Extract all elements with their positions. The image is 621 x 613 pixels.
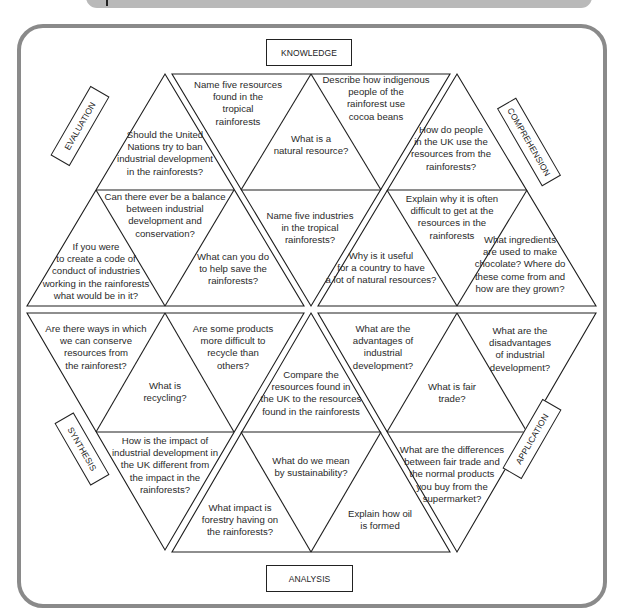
- question-application-2: What is fair trade?: [428, 381, 476, 405]
- question-analysis-4: Explain how oil is formed: [348, 508, 412, 532]
- question-knowledge-4: Name five industries in the tropical rai…: [267, 210, 354, 247]
- question-comprehension-1: How do people in the UK use the resource…: [411, 124, 491, 173]
- question-synthesis-4: How is the impact of industrial developm…: [112, 435, 218, 496]
- question-application-1: What are the advantages of industrial de…: [353, 323, 413, 372]
- question-evaluation-3: If you were to create a code of conduct …: [43, 241, 150, 302]
- label-knowledge: KNOWLEDGE: [266, 39, 352, 66]
- question-knowledge-1: Name five resources found in the tropica…: [194, 79, 282, 128]
- question-comprehension-4: What ingredients are used to make chocol…: [475, 234, 566, 295]
- question-analysis-1: Compare the resources found in the UK to…: [261, 369, 362, 418]
- question-knowledge-3: Describe how indigenous people of the ra…: [322, 74, 429, 123]
- question-comprehension-3: Why is it useful for a country to have a…: [326, 250, 437, 287]
- question-evaluation-4: What can you do to help save the rainfor…: [197, 251, 269, 288]
- question-synthesis-2: What is recycling?: [143, 380, 186, 404]
- question-evaluation-2: Can there ever be a balance between indu…: [104, 191, 225, 240]
- question-application-3: What are the disadvantages of industrial…: [489, 325, 551, 374]
- question-analysis-2: What do we mean by sustainability?: [272, 455, 349, 479]
- question-synthesis-3: Are some products more difficult to recy…: [193, 323, 274, 372]
- question-application-4: What are the differences between fair tr…: [400, 444, 504, 505]
- label-analysis: ANALYSIS: [266, 565, 353, 592]
- question-knowledge-2: What is a natural resource?: [274, 133, 349, 157]
- question-analysis-3: What impact is forestry having on the ra…: [202, 502, 278, 539]
- question-evaluation-1: Should the United Nations try to ban ind…: [117, 129, 213, 178]
- question-synthesis-1: Are there ways in which we can conserve …: [45, 323, 146, 372]
